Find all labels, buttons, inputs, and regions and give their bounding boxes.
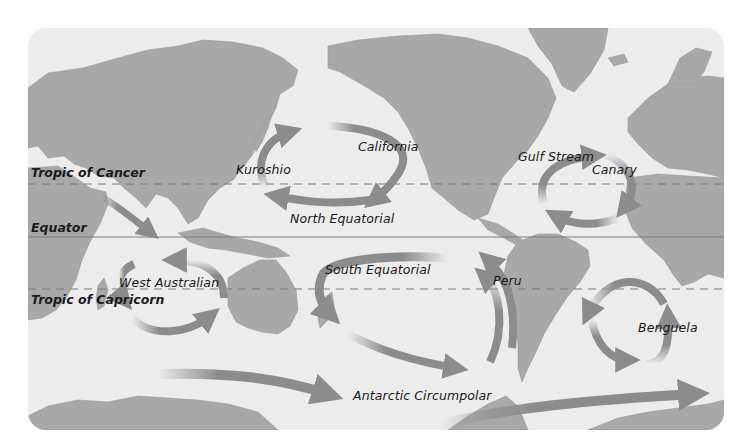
landmasses — [28, 28, 724, 430]
south-atlantic-bottom-arrow — [592, 320, 628, 360]
kuroshio-label: Kuroshio — [236, 162, 291, 177]
california-arrow — [328, 126, 403, 200]
north-equatorial-arrow — [276, 196, 370, 203]
gulf-stream-label: Gulf Stream — [518, 149, 594, 164]
peru-label: Peru — [493, 273, 522, 288]
north-atlantic-return-arrow — [556, 216, 618, 224]
map-graphics — [28, 28, 724, 430]
south-atlantic-top-arrow — [588, 282, 664, 314]
peru-inner-arrow — [484, 276, 499, 362]
west-australian-label: West Australian — [119, 275, 219, 290]
tropic-of-cancer-label: Tropic of Cancer — [31, 165, 145, 180]
north-equatorial-label: North Equatorial — [290, 211, 394, 226]
tropic-of-capricorn-label: Tropic of Capricorn — [31, 292, 164, 307]
kuroshio-arrow — [261, 132, 290, 188]
south-equatorial-label: South Equatorial — [325, 262, 431, 277]
benguela-label: Benguela — [638, 320, 698, 335]
ocean-currents-map: Tropic of Cancer Equator Tropic of Capri… — [28, 28, 724, 430]
antarctic-circumpolar-west-arrow — [158, 374, 328, 394]
equator-label: Equator — [31, 220, 87, 235]
west-australian-bottom-arrow — [132, 316, 210, 331]
california-label: California — [358, 139, 419, 154]
south-pacific-bottom-arrow — [348, 334, 456, 368]
canary-label: Canary — [592, 162, 637, 177]
antarctic-circumpolar-label: Antarctic Circumpolar — [353, 388, 492, 403]
